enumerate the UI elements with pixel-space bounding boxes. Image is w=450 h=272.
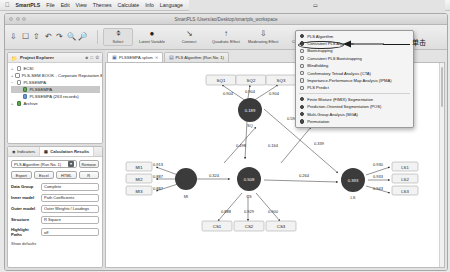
- gear-icon: [300, 86, 304, 90]
- excel-button[interactable]: Excel: [34, 171, 55, 179]
- chart-icon: ▤: [169, 55, 174, 60]
- import-icon[interactable]: ⇩: [9, 33, 18, 42]
- run-select[interactable]: PLS Algorithm (Run No. 1) ▾: [11, 160, 77, 168]
- tree-node-archive[interactable]: + Archive: [11, 100, 100, 107]
- gear-icon: [300, 97, 304, 101]
- toolbar-select-button[interactable]: ⌽ Select: [103, 28, 133, 46]
- tree-node-pls-sem-book[interactable]: + PLS-SEM BOOK - Corporate Reputation Ex…: [11, 72, 100, 79]
- gear-icon: [300, 105, 304, 109]
- svg-text:CS3: CS3: [277, 224, 286, 229]
- field-value[interactable]: off: [41, 228, 99, 236]
- annotation-leader-line: [383, 44, 410, 45]
- tab-calculation-results[interactable]: ▦ Calculation Results: [40, 147, 94, 156]
- menu-item-edit[interactable]: Edit: [61, 2, 70, 8]
- menu-item-smartpls[interactable]: SmartPLS: [16, 2, 41, 8]
- svg-text:0.913: 0.913: [153, 162, 164, 167]
- svg-text:0.933: 0.933: [373, 174, 384, 179]
- menu-item-view[interactable]: View: [76, 2, 87, 8]
- svg-text:0.324: 0.324: [209, 173, 220, 178]
- tree-node-label: ECSI: [23, 66, 33, 71]
- svg-text:SQ3: SQ3: [277, 78, 286, 83]
- collapse-icon[interactable]: ■: [86, 55, 89, 60]
- undo-icon[interactable]: ↶: [44, 33, 53, 42]
- tab-plssempa-splsm[interactable]: ▣ PLSSEMPA.splsm ✕: [107, 52, 163, 62]
- svg-text:0.264: 0.264: [299, 173, 310, 178]
- close-icon[interactable]: ✕: [155, 55, 158, 60]
- menu-item-pls-predict[interactable]: PLS Predict: [296, 84, 413, 91]
- menu-item-pls-algorithm[interactable]: PLS Algorithm: [296, 33, 413, 40]
- tree-twisty[interactable]: −: [11, 80, 15, 85]
- tree-twisty[interactable]: +: [11, 66, 15, 71]
- menu-item-label: PLS Predict: [307, 85, 329, 90]
- html-button[interactable]: HTML: [56, 171, 77, 179]
- checkbox-icon[interactable]: [17, 80, 21, 84]
- project-tree: + ECSI + PLS-SEM BOOK - Corporate Reputa…: [8, 63, 102, 109]
- menu-item-file[interactable]: File: [46, 2, 54, 8]
- toolbar-quadratic-effect-button[interactable]: ↑ Quadratic Effect: [208, 29, 244, 45]
- new-project-icon[interactable]: ☐: [21, 33, 30, 42]
- tree-node-ecsi[interactable]: + ECSI: [11, 65, 100, 72]
- zoom-in-icon[interactable]: 🔎: [78, 33, 87, 42]
- export-icon[interactable]: ⇧: [32, 33, 41, 42]
- project-explorer-controls: ■ □ ☆: [86, 55, 99, 60]
- menu-item-pos[interactable]: Prediction-Oriented Segmentation (POS): [296, 103, 413, 110]
- results-tabs: ◉ Indicators ▦ Calculation Results: [8, 147, 102, 157]
- tab-pls-algorithm-run[interactable]: ▤ PLS Algorithm (Run No. 1): [164, 52, 229, 62]
- project-explorer-panel: 📁 Project Explorer ■ □ ☆ + ECSI: [7, 52, 103, 144]
- annotation-ellipse: [298, 41, 344, 50]
- svg-text:MI3: MI3: [136, 189, 144, 194]
- star-icon[interactable]: ☆: [95, 55, 99, 60]
- calculation-results-panel: ◉ Indicators ▦ Calculation Results PLS A…: [7, 146, 103, 268]
- tree-twisty[interactable]: +: [11, 73, 13, 78]
- canvas-scrollbar[interactable]: [439, 63, 444, 267]
- tab-indicators[interactable]: ◉ Indicators: [8, 147, 40, 156]
- field-value[interactable]: R Square: [41, 216, 99, 224]
- export-button-row: Export Excel HTML R: [11, 171, 99, 179]
- tab-label: PLSSEMPA.splsm: [119, 55, 153, 60]
- indicator-icon: ◉: [12, 149, 15, 154]
- tree-node-plssempa-model[interactable]: PLSSEMPA: [11, 86, 100, 93]
- scrollbar-thumb[interactable]: [441, 67, 444, 107]
- checkbox-icon[interactable]: [17, 66, 21, 70]
- toolbar-latent-variable-button[interactable]: ● Latent Variable: [134, 29, 170, 45]
- menu-item-language[interactable]: Language: [160, 2, 183, 8]
- menu-item-blindfolding[interactable]: Blindfolding: [296, 62, 413, 69]
- menu-item-info[interactable]: Info: [145, 2, 154, 8]
- menu-item-mga[interactable]: Multi-Group Analysis (MGA): [296, 110, 413, 117]
- show-defaults-link[interactable]: Show defaults: [11, 241, 99, 246]
- menu-item-fimix-segmentation[interactable]: Finite Mixture (FIMIX) Segmentation: [296, 96, 413, 103]
- expand-icon[interactable]: □: [90, 55, 93, 60]
- export-button[interactable]: Export: [11, 171, 32, 179]
- zoom-out-icon[interactable]: 🔍: [67, 33, 76, 42]
- run-selector-row: PLS Algorithm (Run No. 1) ▾ Remove: [11, 160, 99, 168]
- tree-node-label: PLSSEMPA: [29, 87, 52, 92]
- moderating-icon: ⇩: [260, 30, 267, 38]
- menu-item-calculate[interactable]: Calculate: [118, 2, 140, 8]
- menu-item-themes[interactable]: Themes: [93, 2, 112, 8]
- tree-twisty[interactable]: +: [11, 101, 15, 106]
- field-value[interactable]: Outer Weights / Loadings: [41, 205, 99, 213]
- toolbar-moderating-effect-label: Moderating Effect: [248, 39, 278, 44]
- field-value[interactable]: Complete: [41, 183, 99, 191]
- menu-item-ipma[interactable]: Importance-Performance Map Analysis (IPM…: [296, 77, 413, 84]
- field-value[interactable]: Path Coefficients: [41, 194, 99, 202]
- svg-text:0.888: 0.888: [221, 209, 232, 214]
- toolbar-latent-variable-label: Latent Variable: [139, 39, 165, 44]
- tree-node-plssempa-data[interactable]: PLSSEMPA (263 records): [11, 93, 100, 100]
- tree-node-plssempa-project[interactable]: − PLSSEMPA: [11, 79, 100, 86]
- menu-item-permutation[interactable]: Permutation: [296, 118, 413, 125]
- toolbar-connect-button[interactable]: ↘ Connect: [171, 29, 207, 45]
- svg-text:0.339: 0.339: [314, 141, 325, 146]
- folder-icon: 📁: [11, 55, 17, 61]
- remove-run-button[interactable]: Remove: [79, 160, 100, 168]
- menu-item-consistent-pls-bootstrapping[interactable]: Consistent PLS Bootstrapping: [296, 55, 413, 62]
- r-button[interactable]: R: [79, 171, 100, 179]
- menu-item-label: Confirmatory Tetrad Analysis (CTA): [307, 71, 371, 76]
- checkbox-icon[interactable]: [15, 73, 19, 77]
- menu-item-confirmatory-tetrad-analysis[interactable]: Confirmatory Tetrad Analysis (CTA): [296, 69, 413, 76]
- chevron-down-icon[interactable]: ▾: [68, 161, 74, 167]
- battery-icon[interactable]: ▭: [313, 2, 318, 8]
- redo-icon[interactable]: ↷: [55, 33, 64, 42]
- toolbar-moderating-effect-button[interactable]: ⇩ Moderating Effect: [245, 29, 281, 45]
- apple-logo-icon[interactable]: : [5, 2, 10, 8]
